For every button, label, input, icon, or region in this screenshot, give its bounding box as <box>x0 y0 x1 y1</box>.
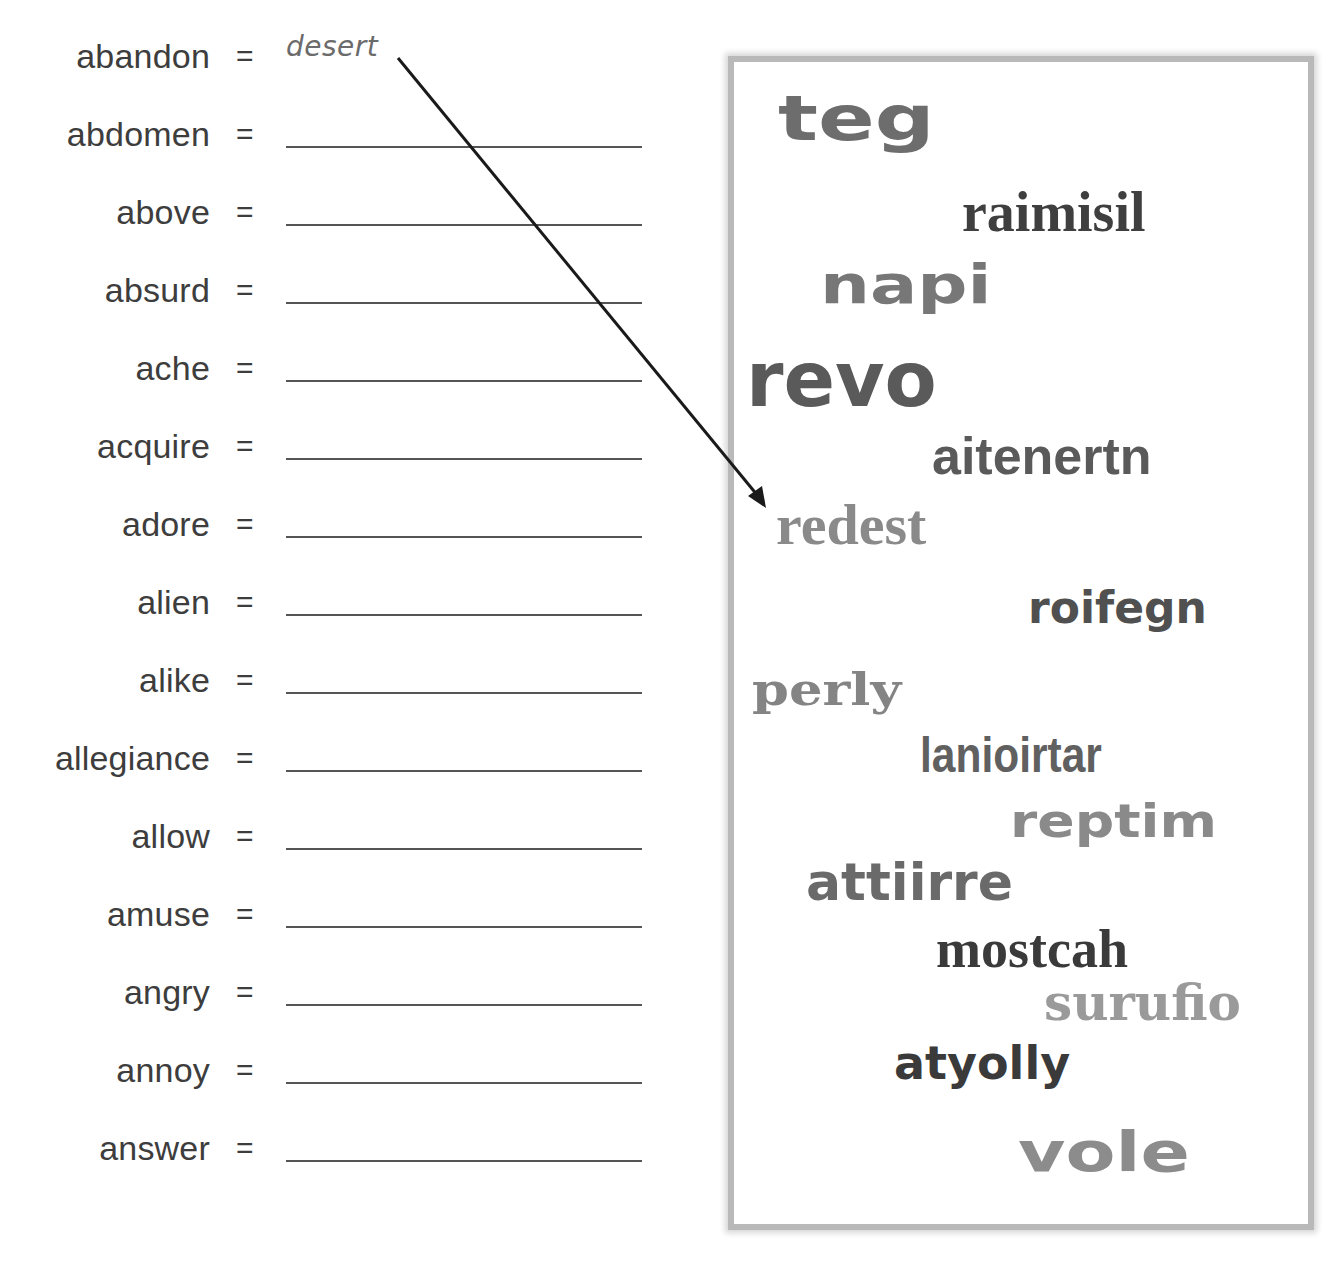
match-arrow-icon <box>0 0 1334 1261</box>
